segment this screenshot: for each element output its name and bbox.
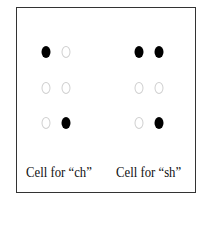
raised-dot-icon <box>62 117 71 129</box>
raised-dot-icon <box>42 46 51 58</box>
cell-label-sh: Cell for “sh” <box>116 164 181 181</box>
raised-dot-icon <box>155 117 164 129</box>
empty-dot-icon <box>42 117 51 129</box>
empty-dot-icon <box>155 82 164 94</box>
raised-dot-icon <box>155 46 164 58</box>
raised-dot-icon <box>135 46 144 58</box>
empty-dot-icon <box>135 117 144 129</box>
empty-dot-icon <box>42 82 51 94</box>
cell-label-ch: Cell for “ch” <box>26 164 92 181</box>
empty-dot-icon <box>62 46 71 58</box>
empty-dot-icon <box>135 82 144 94</box>
empty-dot-icon <box>62 82 71 94</box>
